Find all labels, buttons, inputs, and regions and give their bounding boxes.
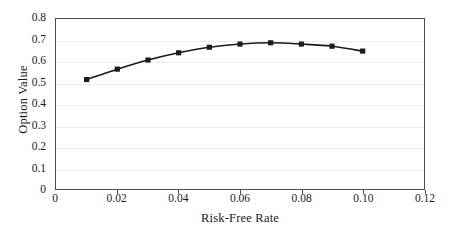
data-point-marker <box>237 42 242 47</box>
series-line-option-value <box>56 19 424 189</box>
data-point-marker <box>207 45 212 50</box>
x-tick-label: 0.02 <box>107 193 127 205</box>
data-point-marker <box>115 67 120 72</box>
series-path <box>87 43 363 80</box>
data-point-marker <box>329 44 334 49</box>
y-tick-label: 0.2 <box>32 141 46 153</box>
option-value-vs-risk-free-rate-chart: 00.10.20.30.40.50.60.70.8 00.020.040.060… <box>0 0 455 240</box>
x-tick-label: 0.04 <box>168 193 188 205</box>
y-tick-label: 0.4 <box>32 98 46 110</box>
data-point-marker <box>360 49 365 54</box>
y-tick-label: 0.1 <box>32 163 46 175</box>
x-tick-label: 0.06 <box>230 193 250 205</box>
y-tick-label: 0.6 <box>32 55 46 67</box>
x-tick-label: 0.12 <box>415 193 435 205</box>
data-point-marker <box>176 50 181 55</box>
y-tick-label: 0.5 <box>32 77 46 89</box>
y-tick-label: 0.8 <box>32 12 46 24</box>
x-tick-label: 0 <box>52 193 58 205</box>
y-tick-label: 0.3 <box>32 120 46 132</box>
data-point-marker <box>299 42 304 47</box>
y-tick-label: 0 <box>40 184 46 196</box>
x-tick-label: 0.10 <box>353 193 373 205</box>
y-tick-label: 0.7 <box>32 34 46 46</box>
plot-area <box>55 18 425 190</box>
series-markers <box>84 40 365 82</box>
data-point-marker <box>84 77 89 82</box>
y-axis-title: Option Value <box>16 30 31 170</box>
x-axis-title: Risk-Free Rate <box>55 211 425 226</box>
data-point-marker <box>145 57 150 62</box>
x-axis-tick-labels: 00.020.040.060.080.100.12 <box>55 193 425 211</box>
data-point-marker <box>268 40 273 45</box>
x-tick-label: 0.08 <box>292 193 312 205</box>
